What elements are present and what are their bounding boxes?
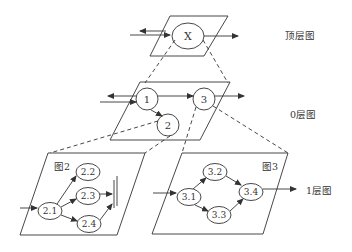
flow-arrow: [151, 110, 162, 116]
process-3-label: 3: [201, 94, 207, 105]
process-2-1-label: 2.1: [43, 206, 57, 216]
projection-line: [145, 40, 175, 83]
fig3-title: 图3: [262, 161, 278, 172]
layered-dfd-diagram: X 1 2 3 2.1 2.2 2.3 2.4 3.1 3.2 3.3 3.4 …: [0, 0, 352, 252]
process-2-4-label: 2.4: [82, 219, 97, 229]
level-1-label: 1层图: [306, 185, 332, 196]
projection-line: [145, 136, 170, 153]
projection-line: [50, 121, 158, 153]
process-3-2-label: 3.2: [208, 167, 222, 177]
process-2-2-label: 2.2: [81, 167, 95, 177]
process-x-label: X: [184, 30, 192, 43]
level-0-diagram: [100, 82, 244, 140]
top-level-label: 顶层图: [285, 30, 315, 41]
process-1-label: 1: [144, 94, 150, 105]
process-3-3-label: 3.3: [212, 210, 227, 220]
fig2-title: 图2: [54, 161, 70, 172]
projection-line: [203, 40, 228, 83]
projection-line: [182, 107, 196, 153]
projection-line: [213, 106, 288, 153]
process-2-3-label: 2.3: [81, 191, 96, 201]
process-3-4-label: 3.4: [244, 187, 259, 197]
level-0-label: 0层图: [290, 109, 316, 120]
process-2-label: 2: [165, 120, 171, 131]
process-3-1-label: 3.1: [182, 192, 196, 202]
